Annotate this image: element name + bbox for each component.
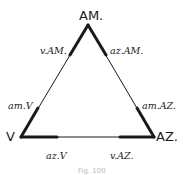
triangle-thick-segments — [21, 25, 154, 137]
thick-segment-top-right — [88, 25, 106, 55]
side-label-bottom-left: az.V — [46, 151, 67, 161]
triangle-diagram — [0, 0, 183, 175]
vertex-label-top: AM. — [79, 9, 103, 22]
side-label-top-left: v.AM. — [40, 46, 67, 56]
side-label-left-upper: am.V — [8, 101, 33, 111]
thick-segment-top-left — [70, 25, 88, 55]
thick-segment-left-upper — [21, 108, 38, 137]
figure-caption: Fig. 100 — [78, 168, 106, 175]
side-label-right-upper: am.AZ. — [142, 101, 176, 111]
vertex-label-right: AZ. — [156, 130, 178, 143]
side-label-bottom-right: v.AZ. — [110, 151, 134, 161]
triangle-thin-edges — [21, 25, 154, 137]
vertex-label-left: V — [6, 130, 15, 143]
thick-segment-right-upper — [137, 108, 154, 137]
side-label-top-right: az.AM. — [110, 46, 143, 56]
